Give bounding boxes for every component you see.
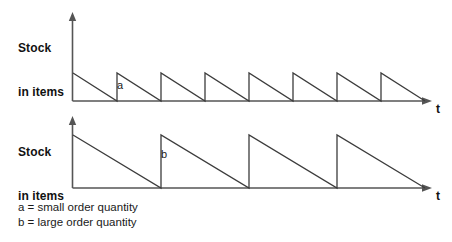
inventory-sawtooth-figure: Stock in items a t Stock in items xyxy=(0,0,452,242)
legend: a = small order quantity b = large order… xyxy=(18,200,138,230)
legend-item-b: b = large order quantity xyxy=(18,215,138,230)
bottom-chart-series-label-b: b xyxy=(161,149,167,160)
bottom-chart-y-axis-arrow xyxy=(69,116,76,125)
legend-item-a: a = small order quantity xyxy=(18,200,138,215)
bottom-chart-x-axis-arrow xyxy=(422,184,432,192)
bottom-chart-x-axis-label: t xyxy=(436,190,440,202)
bottom-chart-stock-sawtooth xyxy=(73,135,425,188)
